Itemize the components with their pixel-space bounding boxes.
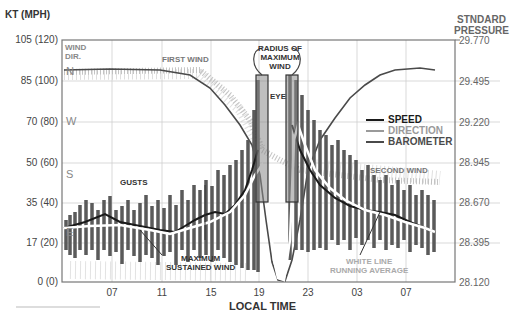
rtick-29495: 29.495	[459, 76, 490, 87]
rmw-box-left	[256, 75, 268, 202]
xtick-07a: 07	[97, 287, 127, 298]
xtick-19: 19	[244, 287, 274, 298]
wind-dir-label: WIND DIR.	[65, 43, 86, 61]
legend-direction: DIRECTION	[388, 125, 443, 136]
xtick-23: 23	[293, 287, 323, 298]
eye-label: EYE	[270, 92, 286, 101]
max-sustained-line2: SUSTAINED WIND	[166, 263, 235, 272]
rtick-28670: 28.670	[459, 197, 490, 208]
dir-s: S	[66, 168, 73, 180]
rmw-box-right	[286, 75, 298, 202]
ytick-35: 35 (40)	[2, 197, 58, 208]
right-axis-title-line1: STNDARD	[454, 14, 509, 25]
rtick-29770: 29.770	[459, 35, 490, 46]
dir-e: E	[66, 226, 73, 238]
wind-dir-line1: WIND	[65, 43, 86, 52]
dir-n: N	[66, 65, 74, 77]
rmw-line2: MAXIMUM	[258, 53, 302, 62]
first-wind-label: FIRST WIND	[162, 55, 209, 64]
max-sustained-line1: MAXIMUM	[166, 254, 235, 263]
rtick-28945: 28.945	[459, 157, 490, 168]
left-axis-title: KT (MPH)	[5, 9, 50, 20]
rmw-label: RADIUS OF MAXIMUM WIND	[258, 44, 302, 71]
wind-dir-line2: DIR.	[65, 52, 86, 61]
max-sustained-label: MAXIMUM SUSTAINED WIND	[166, 254, 235, 272]
rmw-line3: WIND	[258, 62, 302, 71]
rmw-line1: RADIUS OF	[258, 44, 302, 53]
xtick-03: 03	[342, 287, 372, 298]
ytick-0: 0 (0)	[2, 276, 58, 287]
legend-speed: SPEED	[388, 114, 422, 125]
legend-barometer: BAROMETER	[388, 136, 452, 147]
ytick-105: 105 (120)	[2, 34, 58, 45]
x-axis-title: LOCAL TIME	[229, 300, 296, 312]
hurricane-wind-chart: KT (MPH) 105 (120) 85 (100) 70 (80) 50 (…	[0, 0, 514, 325]
xtick-07b: 07	[391, 287, 421, 298]
ytick-70: 70 (80)	[2, 116, 58, 127]
rtick-28120: 28.120	[459, 277, 490, 288]
ytick-85: 85 (100)	[2, 75, 58, 86]
gusts-label: GUSTS	[120, 178, 148, 187]
dir-w: W	[66, 115, 76, 127]
right-axis-title: STNDARD PRESSURE	[454, 14, 509, 36]
ytick-50: 50 (60)	[2, 157, 58, 168]
xtick-15: 15	[196, 287, 226, 298]
second-wind-label: SECOND WIND	[370, 166, 428, 175]
white-line-line1: WHITE LINE	[330, 257, 408, 266]
white-line-label: WHITE LINE RUNNING AVERAGE	[330, 257, 408, 275]
rtick-29220: 29.220	[459, 117, 490, 128]
xtick-11: 11	[147, 287, 177, 298]
rtick-28395: 28.395	[459, 237, 490, 248]
white-line-line2: RUNNING AVERAGE	[330, 266, 408, 275]
ytick-17: 17 (20)	[2, 237, 58, 248]
